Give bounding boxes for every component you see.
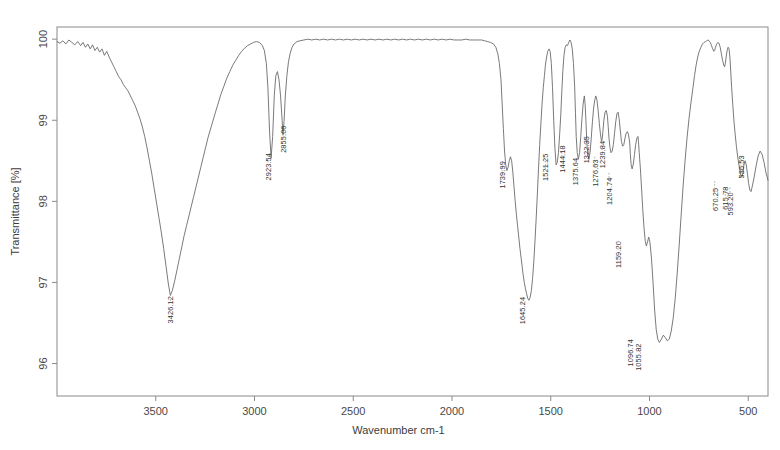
- y-axis-tick-label: 98: [37, 195, 49, 207]
- x-axis-tick-label: 3500: [144, 405, 168, 417]
- x-axis-tick-label: 500: [739, 405, 757, 417]
- peak-label: 1159.20: [614, 241, 623, 268]
- peak-label: 1055.82: [634, 343, 643, 370]
- peak-label: 1444.18: [558, 145, 567, 172]
- ftir-spectrum-figure: 35003000250020001500100050096979899100Wa…: [0, 0, 780, 450]
- peak-label: 1375.64: [571, 158, 580, 185]
- y-axis-tick-label: 99: [37, 114, 49, 126]
- peak-label: 1239.84: [598, 141, 607, 168]
- x-axis-title: Wavenumber cm-1: [352, 424, 445, 436]
- plot-frame: [57, 27, 768, 396]
- x-axis-tick-label: 1500: [539, 405, 563, 417]
- y-axis-tick-label: 97: [37, 276, 49, 288]
- peak-label: 1204.74: [605, 178, 614, 205]
- peak-label: 536.53: [737, 155, 746, 178]
- x-axis-tick-label: 2000: [440, 405, 464, 417]
- peak-label: 1322.35: [582, 136, 591, 163]
- x-axis-tick-label: 1000: [637, 405, 661, 417]
- spectrum-canvas: 35003000250020001500100050096979899100Wa…: [0, 0, 780, 450]
- peak-label: 2855.06: [279, 125, 288, 152]
- x-axis-tick-label: 2500: [341, 405, 365, 417]
- peak-label: 1521.25: [541, 153, 550, 180]
- spectrum-trace: [57, 39, 768, 342]
- y-axis-title: Transmittance [%]: [9, 167, 21, 255]
- peak-label: 2923.54: [264, 153, 273, 180]
- y-axis-tick-label: 100: [37, 30, 49, 48]
- y-axis-tick-label: 96: [37, 357, 49, 369]
- peak-label: 1739.99: [498, 161, 507, 188]
- peak-label: 593.20: [726, 192, 735, 215]
- x-axis-tick-label: 3000: [242, 405, 266, 417]
- peak-label: 1645.24: [518, 297, 527, 324]
- peak-label: 3426.12: [166, 296, 175, 323]
- peak-label: 670.25: [711, 188, 720, 211]
